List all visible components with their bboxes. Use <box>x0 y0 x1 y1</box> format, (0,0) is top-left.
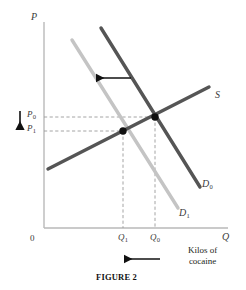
demand-shifted-label-base: D <box>179 207 186 218</box>
demand-shifted-label-subscript: 1 <box>187 212 190 219</box>
y-axis-label: P <box>31 12 37 22</box>
figure-container: P Q 0 Kilos of cocaine P0 P1 Q1 Q0 S D0 … <box>0 0 246 290</box>
demand-initial-label-base: D <box>202 178 209 189</box>
demand-initial-label-subscript: 0 <box>210 183 213 190</box>
equilibrium-point-new <box>119 127 126 134</box>
price-label-new-base: P <box>27 123 33 133</box>
price-label-initial: P0 <box>27 110 36 119</box>
price-label-new-subscript: 1 <box>33 127 36 134</box>
quantity-label-new-base: Q <box>118 232 125 242</box>
supply-curve <box>48 87 209 169</box>
price-label-initial-base: P <box>27 109 33 119</box>
demand-initial-label: D0 <box>202 179 212 189</box>
demand-shifted-label: D1 <box>179 208 189 218</box>
quantity-label-new: Q1 <box>118 233 128 242</box>
projection-lines-group <box>44 117 155 228</box>
price-label-new: P1 <box>27 124 36 133</box>
quantity-label-new-subscript: 1 <box>125 236 128 243</box>
x-axis-label: Q <box>222 232 229 242</box>
origin-label: 0 <box>30 234 35 243</box>
x-axis-caption: Kilos of cocaine <box>188 245 217 266</box>
x-axis-caption-line1: Kilos of <box>188 245 217 256</box>
equilibrium-point-initial <box>151 113 158 120</box>
quantity-label-initial-subscript: 0 <box>157 236 160 243</box>
figure-caption: FIGURE 2 <box>96 272 137 282</box>
quantity-label-initial-base: Q <box>150 232 157 242</box>
x-axis-caption-line2: cocaine <box>188 256 217 267</box>
price-label-initial-subscript: 0 <box>33 113 36 120</box>
quantity-label-initial: Q0 <box>150 233 160 242</box>
supply-curve-label: S <box>215 90 220 100</box>
